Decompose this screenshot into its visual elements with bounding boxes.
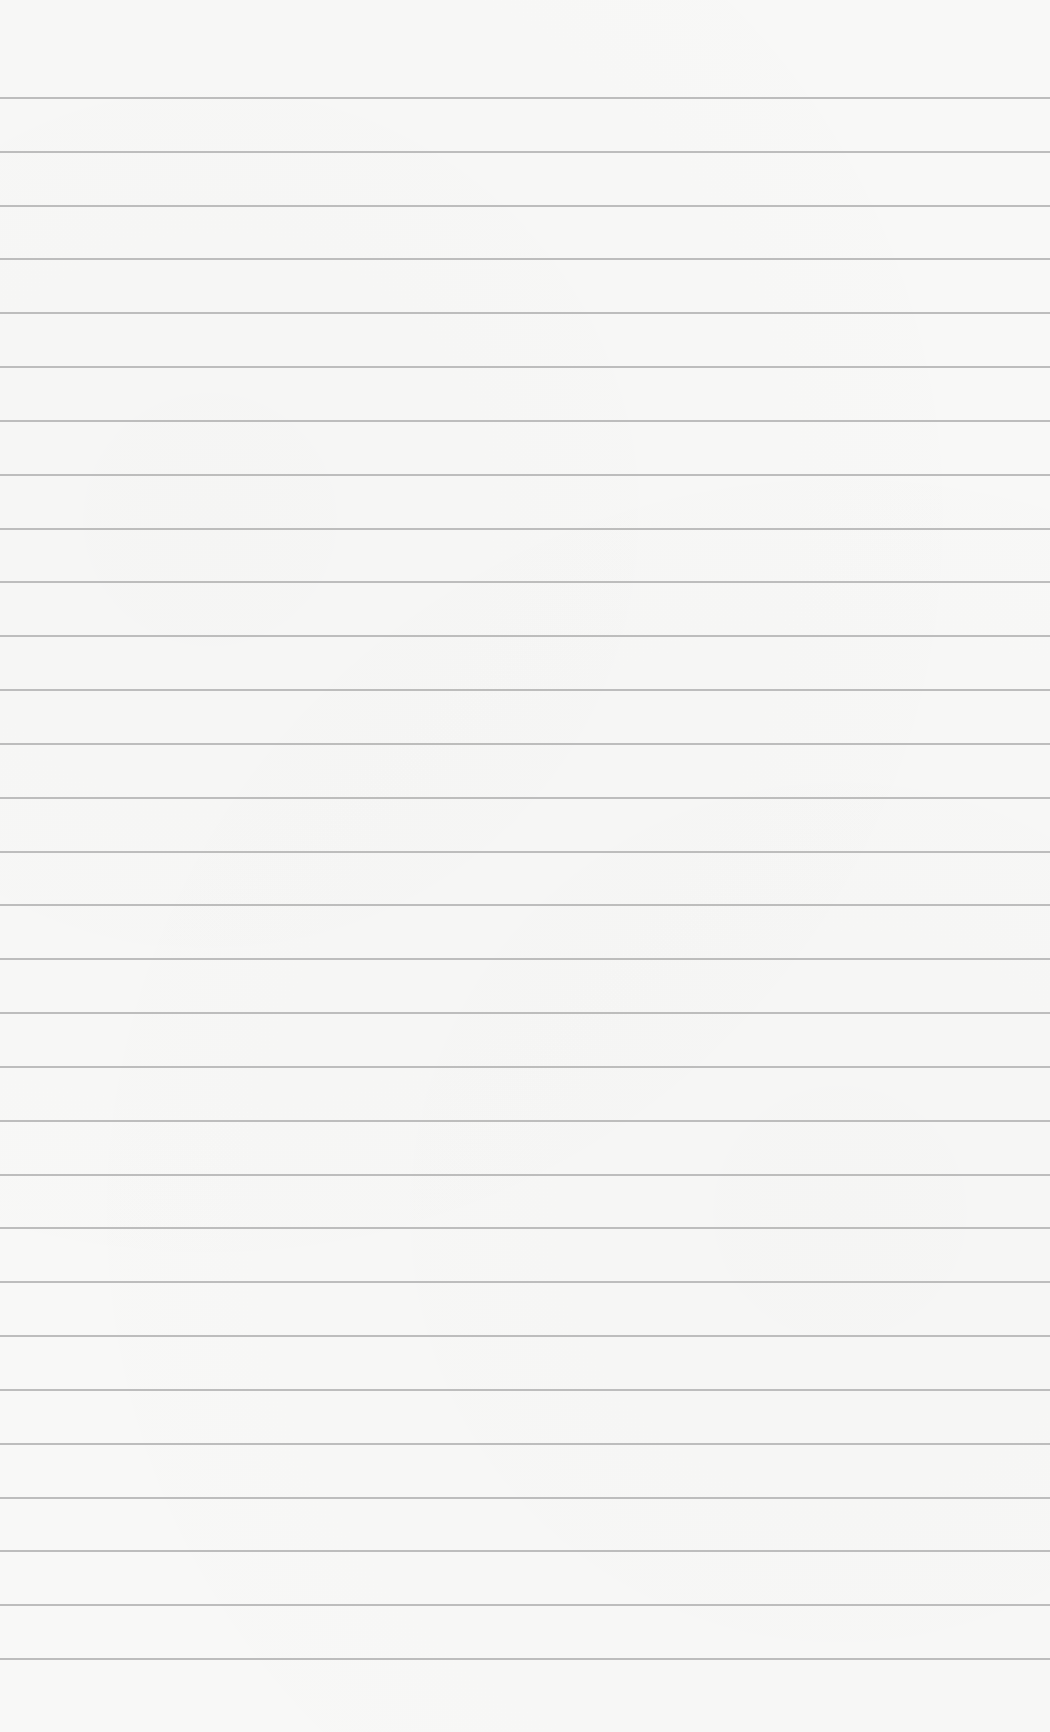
ruled-line xyxy=(0,743,1050,745)
ruled-line xyxy=(0,1443,1050,1445)
ruled-line xyxy=(0,851,1050,853)
ruled-line xyxy=(0,1389,1050,1391)
ruled-line xyxy=(0,1120,1050,1122)
ruled-line xyxy=(0,1658,1050,1660)
ruled-line xyxy=(0,958,1050,960)
ruled-line xyxy=(0,635,1050,637)
ruled-line xyxy=(0,1066,1050,1068)
ruled-line xyxy=(0,258,1050,260)
ruled-line xyxy=(0,1550,1050,1552)
ruled-line xyxy=(0,1012,1050,1014)
ruled-line xyxy=(0,420,1050,422)
ruled-line xyxy=(0,151,1050,153)
ruled-line xyxy=(0,581,1050,583)
ruled-line xyxy=(0,205,1050,207)
ruled-line xyxy=(0,1227,1050,1229)
ruled-line xyxy=(0,528,1050,530)
ruled-line xyxy=(0,1335,1050,1337)
ruled-line xyxy=(0,1174,1050,1176)
ruled-line xyxy=(0,366,1050,368)
ruled-line xyxy=(0,797,1050,799)
ruled-line xyxy=(0,1497,1050,1499)
ruled-line xyxy=(0,474,1050,476)
ruled-line xyxy=(0,904,1050,906)
ruled-line xyxy=(0,1604,1050,1606)
ruled-line xyxy=(0,312,1050,314)
ruled-line xyxy=(0,1281,1050,1283)
ruled-paper xyxy=(0,0,1050,1732)
ruled-line xyxy=(0,689,1050,691)
ruled-line xyxy=(0,97,1050,99)
